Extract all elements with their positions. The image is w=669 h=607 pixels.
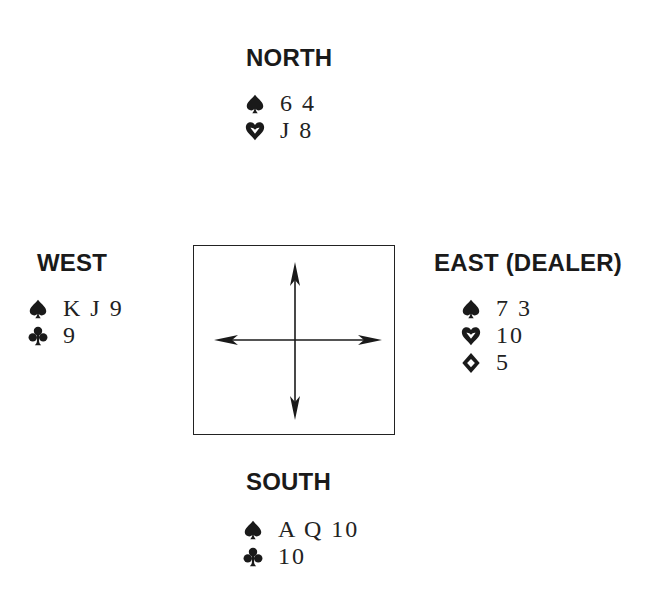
- club-icon: [242, 546, 264, 568]
- cards-hearts: 10: [496, 322, 524, 349]
- spade-icon: [460, 298, 482, 320]
- seat-label-west: WEST: [37, 249, 124, 277]
- heart-icon: [244, 120, 266, 142]
- holding-row-hearts: 10: [460, 322, 622, 349]
- cards-diamonds: 5: [496, 349, 510, 376]
- holding-row-spades: K J 9: [27, 295, 124, 322]
- east-hand: EAST (DEALER) 7 3 10 5: [434, 249, 622, 376]
- seat-label-east: EAST (DEALER): [434, 249, 622, 277]
- cards-clubs: 10: [278, 543, 306, 570]
- holding-row-spades: 6 4: [244, 90, 332, 117]
- holding-row-clubs: 10: [242, 543, 359, 570]
- west-hand: WEST K J 9 9: [37, 249, 124, 349]
- cards-hearts: J 8: [280, 117, 313, 144]
- holding-row-diamonds: 5: [460, 349, 622, 376]
- holding-row-hearts: J 8: [244, 117, 332, 144]
- holding-row-spades: 7 3: [460, 295, 622, 322]
- south-hand: SOUTH A Q 10 10: [246, 468, 359, 570]
- cards-spades: 7 3: [496, 295, 532, 322]
- north-hand: NORTH 6 4 J 8: [246, 44, 332, 144]
- compass-arrows-icon: [194, 246, 396, 436]
- spade-icon: [244, 93, 266, 115]
- club-icon: [27, 325, 49, 347]
- holding-row-spades: A Q 10: [242, 516, 359, 543]
- compass-box: [193, 245, 395, 435]
- spade-icon: [27, 298, 49, 320]
- heart-icon: [460, 325, 482, 347]
- cards-spades: K J 9: [63, 295, 124, 322]
- spade-icon: [242, 519, 264, 541]
- seat-label-north: NORTH: [246, 44, 332, 72]
- holding-row-clubs: 9: [27, 322, 124, 349]
- diamond-icon: [460, 352, 482, 374]
- cards-spades: A Q 10: [278, 516, 359, 543]
- cards-clubs: 9: [63, 322, 77, 349]
- cards-spades: 6 4: [280, 90, 316, 117]
- seat-label-south: SOUTH: [246, 468, 359, 496]
